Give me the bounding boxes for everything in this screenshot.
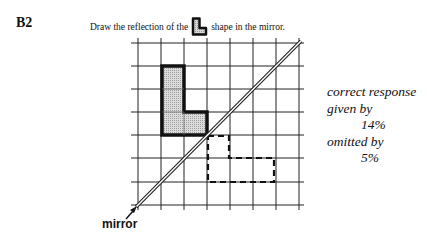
stats-line-correct-response: correct response [327,84,416,101]
response-stats: correct response given by 14% omitted by… [327,84,416,167]
stats-line-given-by: given by [327,101,416,118]
omitted-percentage: 5% [327,150,416,167]
mirror-label: mirror [102,217,137,231]
stats-line-omitted-by: omitted by [327,134,416,151]
correct-percentage: 14% [327,117,416,134]
reflected-shape [208,136,274,182]
original-l-shape [162,66,207,135]
